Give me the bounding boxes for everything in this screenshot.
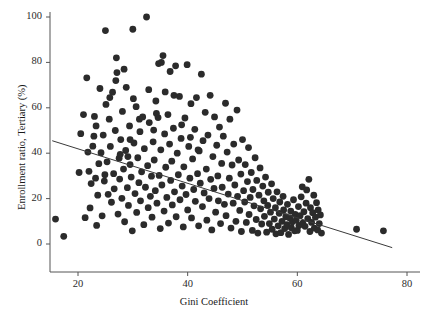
- data-point: [217, 220, 224, 227]
- data-point: [302, 223, 309, 230]
- data-point: [161, 208, 168, 215]
- data-point: [171, 92, 178, 99]
- data-point: [100, 132, 107, 139]
- data-point: [87, 205, 94, 212]
- data-point: [113, 54, 120, 61]
- data-point: [105, 191, 112, 198]
- data-point: [149, 214, 156, 221]
- data-point: [284, 201, 291, 208]
- data-point: [82, 214, 89, 221]
- x-axis-ticks: [78, 272, 407, 276]
- data-point: [262, 174, 269, 181]
- data-point: [144, 162, 151, 169]
- data-point: [252, 154, 259, 161]
- data-point: [256, 192, 263, 199]
- data-point: [162, 89, 169, 96]
- data-point: [127, 136, 134, 143]
- data-point: [245, 144, 252, 151]
- data-point: [192, 198, 199, 205]
- y-tick-label: 100: [0, 10, 42, 21]
- data-point: [195, 222, 202, 229]
- x-tick-label: 60: [277, 278, 317, 289]
- data-point: [246, 211, 253, 218]
- data-point: [285, 231, 292, 238]
- data-point: [305, 176, 312, 183]
- data-point: [244, 178, 251, 185]
- data-point: [219, 184, 226, 191]
- data-point: [114, 69, 121, 76]
- data-point: [223, 212, 230, 219]
- data-point: [169, 202, 176, 209]
- data-point: [230, 200, 237, 207]
- data-point: [132, 190, 139, 197]
- data-point: [158, 182, 165, 189]
- data-point: [76, 169, 83, 176]
- data-point: [112, 77, 119, 84]
- data-point: [95, 160, 102, 167]
- data-point: [220, 133, 227, 140]
- data-point: [228, 225, 235, 232]
- data-point: [193, 94, 200, 101]
- data-point: [106, 116, 113, 123]
- y-tick-label: 80: [0, 55, 42, 66]
- data-point: [234, 107, 241, 114]
- data-point: [93, 222, 100, 229]
- data-point: [86, 168, 93, 175]
- data-point: [136, 116, 143, 123]
- data-point: [111, 185, 118, 192]
- data-point: [197, 180, 204, 187]
- data-point: [106, 94, 113, 101]
- data-point: [178, 135, 185, 142]
- data-points: [52, 14, 387, 240]
- data-point: [243, 219, 250, 226]
- data-point: [202, 109, 209, 116]
- data-point: [271, 216, 278, 223]
- data-point: [126, 123, 133, 130]
- data-point: [317, 212, 324, 219]
- data-point: [224, 149, 231, 156]
- data-point: [218, 160, 225, 167]
- data-point: [250, 186, 257, 193]
- data-point: [83, 74, 90, 81]
- data-point: [153, 110, 160, 117]
- data-point: [160, 52, 167, 59]
- y-tick-label: 40: [0, 146, 42, 157]
- data-point: [310, 192, 317, 199]
- data-point: [157, 146, 164, 153]
- data-point: [184, 61, 191, 68]
- data-point: [140, 221, 147, 228]
- data-point: [221, 201, 228, 208]
- data-point: [117, 151, 124, 158]
- data-point: [237, 171, 244, 178]
- data-point: [233, 218, 240, 225]
- data-point: [117, 136, 124, 143]
- data-point: [101, 171, 108, 178]
- data-point: [216, 124, 223, 131]
- data-point: [165, 220, 172, 227]
- data-point: [129, 227, 136, 234]
- data-point: [248, 169, 255, 176]
- data-point: [215, 197, 222, 204]
- data-point: [119, 108, 126, 115]
- data-point: [353, 226, 360, 233]
- data-point: [97, 85, 104, 92]
- data-point: [147, 193, 154, 200]
- data-point: [213, 142, 220, 149]
- data-point: [254, 230, 261, 237]
- data-point: [313, 199, 320, 206]
- data-point: [235, 157, 242, 164]
- data-point: [167, 68, 174, 75]
- data-point: [301, 208, 308, 215]
- data-point: [208, 227, 215, 234]
- data-point: [257, 165, 264, 172]
- data-point: [179, 183, 186, 190]
- data-point: [107, 143, 114, 150]
- data-point: [182, 115, 189, 122]
- data-point: [276, 199, 283, 206]
- data-point: [298, 193, 305, 200]
- data-point: [92, 175, 99, 182]
- data-point: [203, 166, 210, 173]
- data-point: [188, 215, 195, 222]
- data-point: [102, 27, 109, 34]
- y-axis-ticks: [46, 17, 50, 244]
